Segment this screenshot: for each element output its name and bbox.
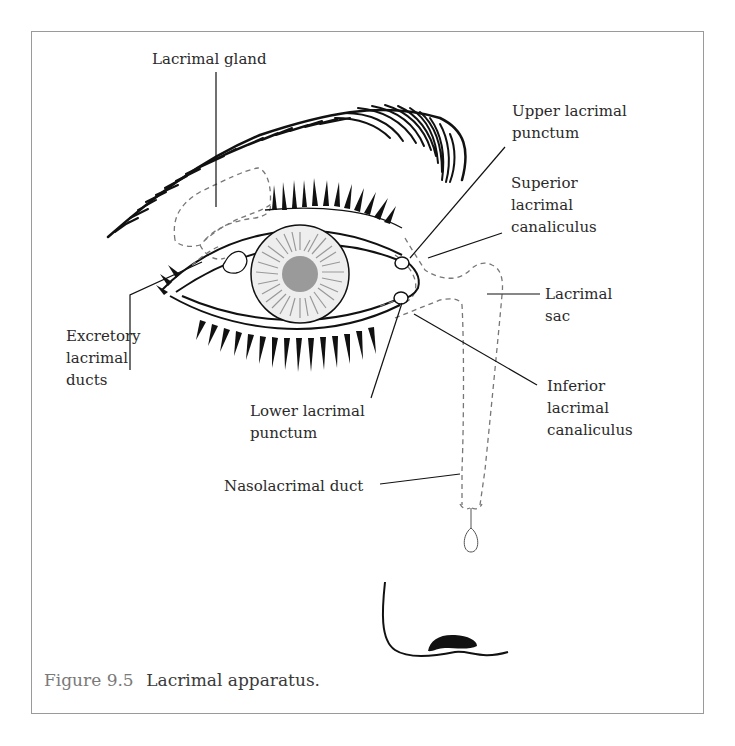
- nostril: [428, 635, 477, 651]
- figure-title: Lacrimal apparatus.: [146, 670, 320, 690]
- figure-caption: Figure 9.5 Lacrimal apparatus.: [44, 670, 320, 691]
- label-nasolacrimal-duct: Nasolacrimal duct: [224, 475, 363, 497]
- label-lacrimal-sac: Lacrimal sac: [545, 283, 612, 327]
- figure-number: Figure 9.5: [44, 670, 134, 690]
- upper-punctum-shape: [395, 257, 409, 269]
- eyebrow: [108, 105, 466, 237]
- lower-punctum-shape: [394, 292, 408, 304]
- caruncle: [223, 251, 247, 273]
- label-lacrimal-gland: Lacrimal gland: [152, 48, 267, 70]
- label-upper-lacrimal-punctum: Upper lacrimal punctum: [512, 100, 627, 144]
- label-inferior-lacrimal-canaliculus: Inferior lacrimal canaliculus: [547, 375, 633, 441]
- label-superior-lacrimal-canaliculus: Superior lacrimal canaliculus: [511, 172, 597, 238]
- teardrop: [464, 508, 478, 552]
- iris: [251, 225, 349, 323]
- label-lower-lacrimal-punctum: Lower lacrimal punctum: [250, 400, 365, 444]
- lacrimal-gland-outline: [174, 168, 270, 259]
- pupil: [282, 256, 318, 292]
- label-excretory-lacrimal-ducts: Excretory lacrimal ducts: [66, 325, 141, 391]
- lacrimal-sac-and-duct-outline: [395, 238, 503, 509]
